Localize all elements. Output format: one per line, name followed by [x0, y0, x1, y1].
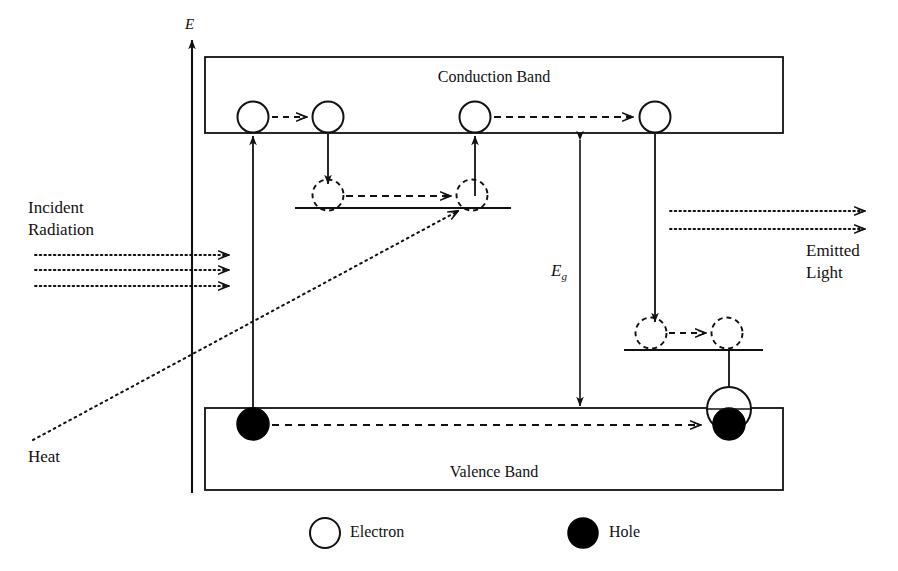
incident-radiation-label-line2: Radiation — [28, 220, 94, 240]
energy-axis-label: E — [185, 16, 194, 34]
incident-radiation-label-line1: Incident — [28, 198, 84, 218]
trapped-electron-right-b — [712, 318, 743, 349]
legend-electron-marker — [310, 518, 340, 548]
legend-electron-label: Electron — [350, 523, 404, 542]
figure-canvas: E Conduction Band Valence Band Eg Incide… — [0, 0, 898, 571]
electron-cb-2 — [313, 102, 344, 133]
hole-recombining — [713, 408, 745, 440]
band-gap-label-sub: g — [561, 270, 567, 282]
heat-ray — [33, 211, 458, 440]
recombination-pair — [707, 387, 751, 440]
emitted-light-label-line2: Light — [806, 263, 843, 283]
emitted-light-label-line1: Emitted — [806, 241, 860, 261]
conduction-band-label: Conduction Band — [438, 68, 550, 87]
electron-cb-1 — [238, 102, 269, 133]
trapped-electron-right-a — [636, 318, 667, 349]
electron-cb-4 — [640, 102, 671, 133]
band-gap-label: Eg — [551, 261, 567, 283]
hole-vb-left — [237, 408, 269, 440]
legend-hole-marker — [568, 518, 598, 548]
trapped-electron-left-a — [313, 180, 344, 211]
legend-hole-label: Hole — [609, 523, 640, 542]
valence-band-label: Valence Band — [450, 463, 538, 482]
incident-radiation-rays — [35, 255, 228, 286]
heat-label: Heat — [28, 447, 60, 467]
trapped-electron-left-b — [457, 180, 488, 211]
band-gap-label-base: E — [551, 261, 561, 280]
electron-cb-3 — [460, 102, 491, 133]
emitted-light-rays — [670, 211, 864, 229]
